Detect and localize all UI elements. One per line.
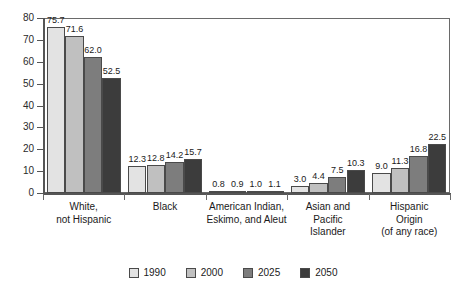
bar (347, 170, 366, 193)
bar (247, 191, 266, 193)
chart-legend: 1990200020252050 (0, 268, 466, 278)
bar (65, 36, 84, 193)
bar (209, 191, 228, 193)
category-label: Asian andPacificIslander (281, 201, 374, 239)
legend-label: 1990 (144, 268, 166, 278)
bar (102, 78, 121, 193)
bar (291, 186, 310, 193)
category-label-line: Hispanic (363, 201, 456, 214)
bar (228, 191, 247, 193)
legend-label: 2025 (258, 268, 280, 278)
legend-item: 2000 (186, 268, 223, 278)
bar-value-label: 1.1 (261, 180, 288, 189)
legend-swatch (300, 268, 310, 278)
bar (147, 165, 166, 193)
category-separator-tick (450, 194, 451, 200)
legend-swatch (186, 268, 196, 278)
category-separator-tick (206, 194, 207, 200)
bar (309, 183, 328, 193)
category-label-line: Asian and (281, 201, 374, 214)
bar (84, 57, 103, 193)
bars-layer: 75.771.662.052.512.312.814.215.70.80.91.… (0, 0, 466, 297)
legend-item: 2025 (243, 268, 280, 278)
category-label-line: Pacific (281, 214, 374, 227)
bar (47, 27, 66, 193)
legend-swatch (243, 268, 253, 278)
bar-value-label: 15.7 (180, 148, 207, 157)
category-separator-tick (287, 194, 288, 200)
bar-value-label: 10.3 (343, 159, 370, 168)
bar-value-label: 22.5 (424, 133, 451, 142)
bar (265, 191, 284, 193)
category-label-line: Origin (363, 214, 456, 227)
category-label: American Indian,Eskimo, and Aleut (200, 201, 293, 226)
category-separator-tick (124, 194, 125, 200)
bar-value-label: 62.0 (80, 46, 107, 55)
legend-swatch (129, 268, 139, 278)
bar-chart: 01020304050607080 75.771.662.052.512.312… (0, 0, 466, 297)
bar (428, 144, 447, 193)
legend-item: 2050 (300, 268, 337, 278)
bar (391, 168, 410, 193)
category-label-line: Islander (281, 226, 374, 239)
bar (184, 159, 203, 193)
category-label-line: not Hispanic (37, 214, 130, 227)
bar (409, 156, 428, 193)
category-label-line: Black (118, 201, 211, 214)
bar (128, 166, 147, 193)
category-label: HispanicOrigin(of any race) (363, 201, 456, 239)
category-separator-tick (43, 194, 44, 200)
category-label-line: (of any race) (363, 226, 456, 239)
bar-value-label: 52.5 (98, 67, 125, 76)
category-label-line: Eskimo, and Aleut (200, 214, 293, 227)
category-separator-tick (369, 194, 370, 200)
legend-label: 2050 (315, 268, 337, 278)
category-label: Black (118, 201, 211, 214)
bar (372, 173, 391, 193)
category-label-line: White, (37, 201, 130, 214)
bar (165, 162, 184, 193)
bar-value-label: 71.6 (61, 25, 88, 34)
category-label: White,not Hispanic (37, 201, 130, 226)
legend-item: 1990 (129, 268, 166, 278)
legend-label: 2000 (201, 268, 223, 278)
category-label-line: American Indian, (200, 201, 293, 214)
bar (328, 177, 347, 193)
